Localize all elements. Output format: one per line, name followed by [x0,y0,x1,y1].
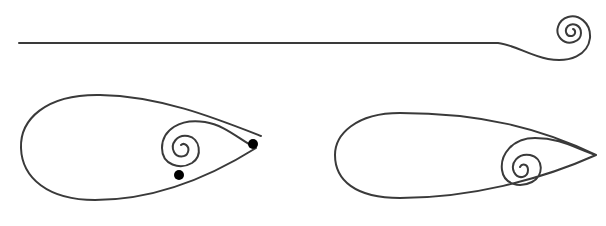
figure-straight-line-with-spiral [19,16,590,60]
figure-closed-teardrop-with-spiral [335,113,596,198]
figure-open-teardrop-with-spiral [21,95,261,200]
teardrop-outline-open [21,95,261,200]
diagram-canvas [0,0,606,226]
marker-dot-bottom [174,170,184,180]
horizontal-line [19,16,590,60]
marker-dot-tip [248,139,258,149]
teardrop-outline-closed [335,113,596,198]
